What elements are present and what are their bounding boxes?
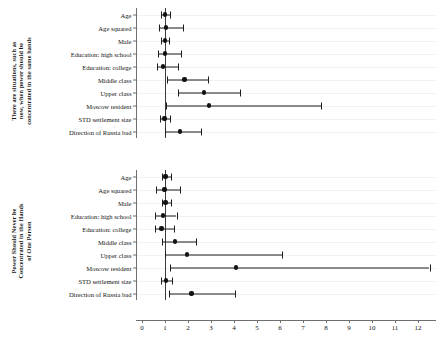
y-axis-tick (133, 176, 136, 177)
ci-upper-cap (201, 128, 202, 135)
x-axis-tick (165, 320, 166, 323)
ci-upper-cap (170, 11, 171, 18)
confidence-interval-line (165, 254, 282, 255)
y-axis-tick (133, 215, 136, 216)
point-estimate-marker (185, 252, 189, 256)
point-estimate-marker (163, 174, 167, 178)
ci-upper-cap (282, 251, 283, 258)
x-axis-tick (280, 320, 281, 323)
plot-row: Age (136, 170, 436, 183)
point-estimate-marker (189, 291, 193, 295)
ci-upper-cap (196, 238, 197, 245)
x-axis-tick (326, 320, 327, 323)
panel-bottom: AgeAge squaredMaleEducation: high school… (136, 170, 436, 300)
y-axis-tick (133, 66, 136, 67)
y-axis-tick (133, 254, 136, 255)
panel-bottom-title-line-2: Concentrated in the Hands (17, 167, 24, 315)
x-axis: 0123456789101112 (136, 320, 436, 340)
ci-upper-cap (170, 115, 171, 122)
confidence-interval-line (159, 27, 183, 28)
panel-bottom-title-line-3: of One Person (25, 167, 32, 315)
y-axis-tick (133, 105, 136, 106)
ci-upper-cap (181, 50, 182, 57)
plot-row: Age (136, 8, 436, 21)
ci-lower-cap (161, 37, 162, 44)
ci-upper-cap (235, 290, 236, 297)
plot-row: Direction of Russia bad (136, 125, 436, 138)
y-axis-label: Age squared (98, 24, 131, 31)
y-axis-label: Education: college (82, 63, 131, 70)
plot-row: STD settlement size (136, 112, 436, 125)
ci-lower-cap (169, 290, 170, 297)
y-axis-tick (133, 267, 136, 268)
ci-lower-cap (159, 24, 160, 31)
ci-upper-cap (171, 199, 172, 206)
forest-plot-figure: There are situations, such as now, when … (0, 0, 442, 340)
y-axis-tick (133, 53, 136, 54)
x-axis-tick (418, 320, 419, 323)
confidence-interval-line (167, 79, 208, 80)
ci-lower-cap (155, 212, 156, 219)
x-axis-tick-label: 2 (186, 324, 190, 332)
x-axis-tick-label: 6 (278, 324, 282, 332)
plot-row: Education: college (136, 60, 436, 73)
x-axis-tick (188, 320, 189, 323)
y-axis-tick (133, 14, 136, 15)
y-axis-label: Age (121, 173, 132, 180)
ci-upper-cap (183, 24, 184, 31)
y-axis-label: Age squared (98, 186, 131, 193)
x-axis-tick-label: 3 (209, 324, 213, 332)
x-axis-tick (372, 320, 373, 323)
plot-row: Middle class (136, 73, 436, 86)
y-axis-label: Education: college (82, 225, 131, 232)
confidence-interval-line (155, 228, 174, 229)
point-estimate-marker (163, 38, 167, 42)
plot-row: Upper class (136, 248, 436, 261)
ci-lower-cap (165, 128, 166, 135)
x-axis-tick-label: 7 (301, 324, 305, 332)
y-axis-label: Middle class (98, 238, 132, 245)
point-estimate-marker (207, 103, 211, 107)
panel-bottom-title-line-1: Power Should Never be (10, 167, 17, 315)
point-estimate-marker (163, 12, 167, 16)
x-axis-tick (234, 320, 235, 323)
plot-row: Education: high school (136, 209, 436, 222)
x-axis-tick (395, 320, 396, 323)
ci-upper-cap (172, 277, 173, 284)
plot-row: Middle class (136, 235, 436, 248)
x-axis-tick-label: 9 (347, 324, 351, 332)
ci-upper-cap (180, 186, 181, 193)
y-axis-label: STD settlement size (78, 115, 131, 122)
point-estimate-marker (178, 129, 182, 133)
x-axis-tick-label: 10 (369, 324, 376, 332)
y-axis-label: Direction of Russia bad (69, 128, 131, 135)
confidence-interval-line (162, 241, 196, 242)
point-estimate-marker (182, 77, 186, 81)
point-estimate-marker (161, 64, 165, 68)
x-axis-line (136, 320, 436, 321)
y-axis-tick (133, 131, 136, 132)
point-estimate-marker (202, 90, 206, 94)
panel-top-title-line-3: concentrated in the same hands (25, 7, 32, 155)
y-axis-label: Education: high school (71, 50, 132, 57)
plot-row: STD settlement size (136, 274, 436, 287)
point-estimate-marker (163, 200, 167, 204)
confidence-interval-line (169, 293, 235, 294)
y-axis-tick (133, 40, 136, 41)
x-axis-tick-label: 5 (255, 324, 259, 332)
x-axis-tick-label: 4 (232, 324, 236, 332)
point-estimate-marker (162, 116, 166, 120)
x-axis-tick-label: 11 (392, 324, 399, 332)
y-axis-label: Upper class (101, 251, 132, 258)
ci-upper-cap (169, 37, 170, 44)
y-axis-tick (133, 280, 136, 281)
ci-upper-cap (321, 102, 322, 109)
y-axis-tick (133, 293, 136, 294)
ci-lower-cap (156, 186, 157, 193)
point-estimate-marker (164, 25, 168, 29)
ci-lower-cap (165, 251, 166, 258)
ci-lower-cap (166, 102, 167, 109)
ci-lower-cap (155, 225, 156, 232)
plot-row: Male (136, 196, 436, 209)
plot-row: Education: college (136, 222, 436, 235)
